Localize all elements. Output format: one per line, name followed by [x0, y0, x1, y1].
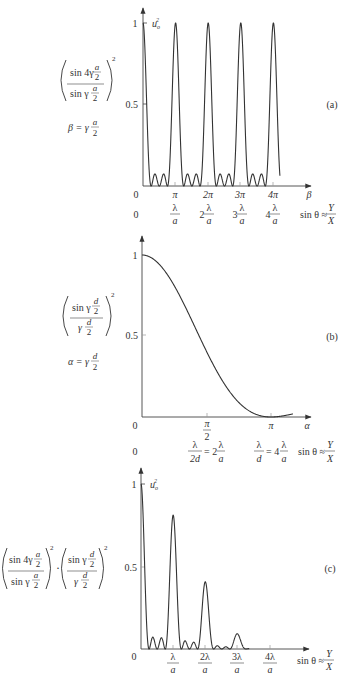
panel-label-a: (a)	[326, 99, 337, 111]
svg-text:a: a	[203, 664, 208, 675]
svg-text:sin γ: sin γ	[70, 88, 89, 99]
x-tick-pi: π	[268, 420, 274, 431]
svg-text:3λ: 3λ	[232, 651, 242, 662]
svg-text:4λ: 4λ	[265, 651, 275, 662]
row2-lambda-2d: λ 2d = 2 λ a	[188, 439, 225, 464]
svg-text:2: 2	[50, 544, 54, 552]
x-axis-label-beta: β	[306, 189, 312, 200]
svg-text:λ: λ	[257, 439, 262, 450]
svg-text:X: X	[325, 661, 333, 672]
svg-text:d: d	[93, 351, 98, 361]
svg-text:γ: γ	[78, 322, 83, 333]
svg-text:Y: Y	[326, 648, 333, 659]
svg-text:d: d	[83, 570, 88, 580]
svg-text:= 4: = 4	[266, 446, 279, 457]
svg-text:2d: 2d	[190, 453, 201, 464]
svg-text:2: 2	[93, 128, 98, 138]
panel-label-c: (c)	[324, 563, 335, 575]
y-axis-label: uo2	[150, 478, 158, 491]
svg-text:2: 2	[111, 291, 115, 299]
row2-zero: 0	[134, 209, 139, 220]
svg-text:2: 2	[93, 93, 98, 103]
y-tick-05: 0.5	[125, 562, 138, 573]
svg-text:sin θ ≈: sin θ ≈	[298, 446, 325, 457]
x-tick-3lambda-a: 3λ a	[230, 651, 244, 675]
row2-zero: 0	[133, 446, 138, 457]
svg-text:λ: λ	[282, 439, 287, 450]
x-axis-label-alpha: α	[304, 420, 310, 431]
panel-a: 1 uo2 0.5 0 π 2π 3π 4π β 0 λ a 2 λ a 3 λ…	[61, 8, 338, 226]
svg-text:sin 4γ: sin 4γ	[9, 554, 33, 565]
row2-sin-theta-label: sin θ ≈ Y X	[300, 202, 336, 226]
y-tick-0: 0	[133, 420, 138, 431]
x-tick-pi-half: π 2	[203, 418, 211, 442]
row2-lambda-d: λ d = 4 λ a	[254, 439, 288, 464]
svg-text:sin γ: sin γ	[68, 554, 87, 565]
svg-text:λ: λ	[273, 202, 278, 213]
svg-text:d: d	[94, 296, 99, 306]
svg-text:X: X	[327, 215, 335, 226]
svg-text:β = γ: β = γ	[67, 122, 90, 133]
svg-text:2: 2	[200, 209, 205, 220]
svg-text:a: a	[268, 664, 273, 675]
svg-text:2: 2	[104, 544, 108, 552]
x-tick-2pi: 2π	[203, 189, 214, 200]
y-tick-05: 0.5	[126, 330, 139, 341]
x-tick-3pi: 3π	[234, 189, 246, 200]
svg-text:sin γ: sin γ	[11, 576, 30, 587]
svg-text:a: a	[171, 664, 176, 675]
row2-lambda-a-2: 2 λ a	[200, 202, 215, 226]
svg-text:4: 4	[266, 209, 271, 220]
svg-text:2: 2	[87, 327, 92, 337]
svg-text:d: d	[90, 549, 95, 559]
svg-text:a: a	[282, 453, 287, 464]
svg-text:2: 2	[93, 362, 98, 372]
curve-b	[142, 255, 293, 417]
svg-text:a: a	[93, 117, 98, 127]
svg-text:a: a	[95, 62, 100, 72]
svg-text:2λ: 2λ	[200, 651, 210, 662]
svg-text:sin 4γ: sin 4γ	[70, 67, 94, 78]
row2-lambda-a-3: 3 λ a	[233, 202, 248, 226]
svg-text:2: 2	[94, 306, 99, 316]
svg-text:λ: λ	[207, 202, 212, 213]
svg-text:γ: γ	[74, 576, 79, 587]
y-tick-0: 0	[134, 189, 139, 200]
svg-text:a: a	[219, 453, 224, 464]
svg-text:λ: λ	[171, 651, 176, 662]
svg-text:a: a	[173, 215, 178, 226]
svg-text:a: a	[273, 215, 278, 226]
svg-text:X: X	[326, 453, 334, 464]
svg-text:α = γ: α = γ	[68, 356, 90, 367]
svg-text:2: 2	[36, 559, 41, 569]
formula-b: 2 sin γ d 2 γ d 2	[63, 291, 115, 337]
svg-text:2: 2	[95, 72, 100, 82]
formula-c: 2 sin 4γ a 2 sin γ a 2 · 2 sin γ d 2 γ d…	[3, 544, 109, 590]
y-tick-0: 0	[132, 651, 137, 662]
curve-a	[143, 23, 280, 186]
y-axis-label: uo2	[152, 17, 160, 30]
definition-beta: β = γ a 2	[67, 117, 99, 138]
svg-text:a: a	[235, 664, 240, 675]
y-tick-05: 0.5	[126, 99, 139, 110]
y-tick-1: 1	[133, 18, 138, 29]
row2-lambda-a-1: λ a	[170, 202, 180, 226]
x-tick-4pi: 4π	[268, 189, 279, 200]
figure: 1 uo2 0.5 0 π 2π 3π 4π β 0 λ a 2 λ a 3 λ…	[0, 0, 354, 683]
svg-text:3: 3	[233, 209, 238, 220]
panel-c: 1 uo2 0.5 0 λ a 2λ a 3λ a 4λ a sin θ ≈ Y	[3, 468, 336, 675]
curve-c	[141, 484, 249, 649]
x-tick-2lambda-a: 2λ a	[198, 651, 212, 675]
svg-text:d: d	[257, 453, 263, 464]
panel-b: 1 0.5 0 π 2 π α 0 λ 2d = 2 λ a λ d = 4 λ…	[63, 236, 338, 464]
x-tick-4lambda-a: 4λ a	[263, 651, 277, 675]
svg-text:sin θ ≈: sin θ ≈	[300, 209, 327, 220]
row2-lambda-a-4: 4 λ a	[266, 202, 281, 226]
svg-text:2: 2	[83, 580, 88, 590]
panel-label-b: (b)	[326, 331, 338, 343]
row2-sin-theta-label: sin θ ≈ Y X	[298, 439, 335, 464]
svg-text:a: a	[207, 215, 212, 226]
svg-text:λ: λ	[240, 202, 245, 213]
svg-text:= 2: = 2	[204, 446, 217, 457]
svg-text:a: a	[93, 83, 98, 93]
